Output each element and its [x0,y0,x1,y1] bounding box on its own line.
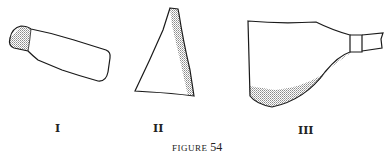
fragment-ii [135,8,194,96]
caption-prefix: FIGURE [172,143,208,153]
caption-number: 54 [210,140,222,154]
label-iii: III [298,124,313,137]
label-ii: II [153,122,163,135]
figure-caption: FIGURE 54 [172,140,222,155]
fragment-i [10,26,111,81]
label-i: I [55,122,60,135]
fragment-iii [248,21,383,107]
